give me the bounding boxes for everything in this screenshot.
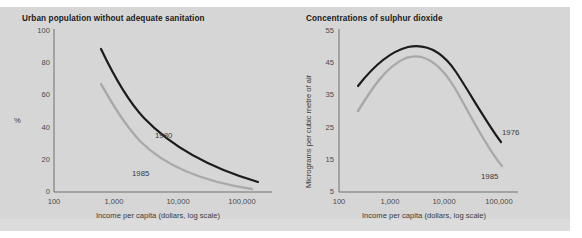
y-tick-label: 0 bbox=[22, 187, 50, 196]
x-tick-label: 100,000 bbox=[476, 197, 522, 206]
x-tick-label: 100 bbox=[324, 197, 354, 206]
y-tick-label: 45 bbox=[308, 58, 334, 67]
plot-area-sulphur-dioxide bbox=[296, 0, 570, 224]
series-line-1980 bbox=[101, 49, 258, 182]
y-axis-title-micrograms: Micrograms per cubic metre of air bbox=[304, 75, 313, 188]
series-annotation-1976: 1976 bbox=[502, 128, 519, 137]
y-axis-title-percent: % bbox=[14, 116, 21, 125]
chart-urban-sanitation: Urban population without adequate sanita… bbox=[8, 0, 290, 224]
y-tick-label: 60 bbox=[22, 90, 50, 99]
y-tick-label: 55 bbox=[308, 26, 334, 35]
series-annotation-1985: 1985 bbox=[132, 169, 149, 178]
x-tick-label: 1,000 bbox=[372, 197, 408, 206]
x-axis-title-income: Income per capita (dollars, log scale) bbox=[44, 211, 272, 220]
x-tick-label: 10,000 bbox=[424, 197, 464, 206]
x-tick-label: 10,000 bbox=[158, 197, 198, 206]
x-tick-label: 100 bbox=[39, 197, 69, 206]
chart-sulphur-dioxide: Concentrations of sulphur dioxide 55 45 … bbox=[296, 0, 570, 224]
y-tick-label: 20 bbox=[22, 155, 50, 164]
series-annotation-1980: 1980 bbox=[155, 131, 172, 140]
y-tick-label: 80 bbox=[22, 58, 50, 67]
y-tick-label: 40 bbox=[22, 123, 50, 132]
x-tick-label: 1,000 bbox=[96, 197, 132, 206]
series-annotation-1985: 1985 bbox=[481, 172, 498, 181]
x-tick-label: 100,000 bbox=[219, 197, 265, 206]
y-tick-label: 100 bbox=[22, 26, 50, 35]
x-axis-title-income: Income per capita (dollars, log scale) bbox=[324, 211, 524, 220]
figure-root: Urban population without adequate sanita… bbox=[0, 0, 582, 238]
y-tick-label: 5 bbox=[308, 187, 334, 196]
plot-area-urban-sanitation bbox=[8, 0, 290, 224]
